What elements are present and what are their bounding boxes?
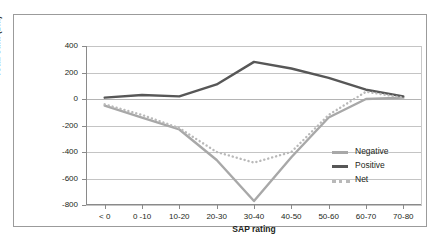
legend-label: Net — [355, 174, 368, 185]
y-tick-label: 0 — [18, 95, 78, 103]
x-tick-mark — [142, 205, 143, 209]
plot-area — [86, 46, 422, 205]
figure-root: Total sum (£m) 4002000-200-400-600-800 <… — [0, 0, 443, 241]
x-tick-mark — [329, 205, 330, 209]
legend-swatch-icon — [332, 151, 348, 154]
y-tick-label: -400 — [18, 148, 78, 156]
x-tick-mark — [105, 205, 106, 209]
x-tick-mark — [366, 205, 367, 209]
plot-right-edge — [421, 46, 422, 205]
x-tick-mark — [254, 205, 255, 209]
x-tick-mark — [403, 205, 404, 209]
legend-swatch-icon — [332, 180, 350, 183]
x-tick-mark — [291, 205, 292, 209]
x-tick-mark — [217, 205, 218, 209]
caption-remnant — [0, 0, 443, 9]
x-tick-mark — [179, 205, 180, 209]
y-tick-label: -800 — [18, 201, 78, 209]
legend-label: Positive — [355, 160, 385, 171]
y-tick-label: 400 — [18, 42, 78, 50]
y-axis-title: Total sum (£m) — [0, 0, 2, 77]
legend-label: Negative — [355, 146, 389, 157]
y-tick-label: -200 — [18, 122, 78, 130]
y-tick-mark--800 — [82, 205, 86, 206]
x-axis-title: SAP rating — [86, 224, 422, 234]
figure-frame: Total sum (£m) 4002000-200-400-600-800 <… — [13, 14, 427, 227]
legend-swatch-icon — [332, 165, 348, 168]
x-tick-label: 70-80 — [379, 212, 427, 221]
y-tick-label: -600 — [18, 175, 78, 183]
y-tick-label: 200 — [18, 69, 78, 77]
